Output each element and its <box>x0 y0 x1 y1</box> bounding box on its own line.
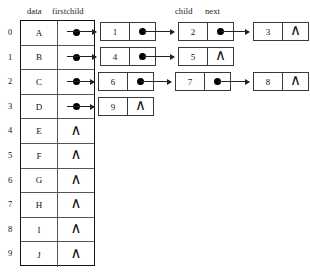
vertex-row: D <box>21 95 94 120</box>
firstchild-arrow <box>67 81 94 82</box>
null-pointer-icon: ∧ <box>71 172 82 187</box>
next-arrow <box>143 31 174 32</box>
null-pointer-icon: ∧ <box>71 246 82 261</box>
caption-next: next <box>205 6 220 16</box>
node-child-cell: 2 <box>179 23 208 40</box>
vertex-firstchild-cell: ∧ <box>58 144 94 168</box>
vertex-firstchild-cell: ∧ <box>58 193 94 217</box>
vertex-index-label: 7 <box>4 192 16 217</box>
node-child-cell: 1 <box>101 23 130 40</box>
node-child-cell: 8 <box>254 73 283 90</box>
vertex-row: E∧ <box>21 119 94 144</box>
node-next-cell: ∧ <box>283 73 308 90</box>
vertex-firstchild-cell: ∧ <box>58 169 94 193</box>
vertex-data-cell: I <box>21 218 58 242</box>
vertex-firstchild-cell: ∧ <box>58 218 94 242</box>
vertex-row: I∧ <box>21 218 94 243</box>
next-arrow <box>218 81 249 82</box>
null-pointer-icon: ∧ <box>71 147 82 162</box>
next-arrow <box>143 56 174 57</box>
vertex-index-label: 5 <box>4 143 16 168</box>
vertex-row: G∧ <box>21 169 94 194</box>
node-child-cell: 6 <box>99 73 128 90</box>
vertex-firstchild-cell: ∧ <box>58 119 94 143</box>
vertex-index-label: 4 <box>4 118 16 143</box>
vertex-row: A <box>21 21 94 46</box>
vertex-data-cell: F <box>21 144 58 168</box>
vertex-data-cell: H <box>21 193 58 217</box>
list-node: 9∧ <box>98 97 154 116</box>
vertex-index-label: 6 <box>4 168 16 193</box>
firstchild-arrow <box>67 56 96 57</box>
node-next-cell: ∧ <box>208 48 233 65</box>
node-child-cell: 5 <box>179 48 208 65</box>
node-child-cell: 4 <box>101 48 130 65</box>
node-next-cell: ∧ <box>128 98 153 115</box>
vertex-row: C <box>21 70 94 95</box>
null-pointer-icon: ∧ <box>71 196 82 211</box>
vertex-row: H∧ <box>21 193 94 218</box>
vertex-index-label: 3 <box>4 94 16 119</box>
pointer-dot-icon <box>73 54 80 61</box>
null-pointer-icon: ∧ <box>290 23 301 38</box>
next-arrow <box>141 81 171 82</box>
vertex-row: F∧ <box>21 144 94 169</box>
caption-data: data <box>27 6 42 16</box>
vertex-data-cell: B <box>21 46 58 70</box>
vertex-row: B <box>21 46 94 71</box>
vertex-index-label: 0 <box>4 20 16 45</box>
list-node: 8∧ <box>253 72 309 91</box>
node-child-cell: 3 <box>254 23 283 40</box>
null-pointer-icon: ∧ <box>71 221 82 236</box>
vertex-data-cell: A <box>21 21 58 45</box>
node-child-cell: 9 <box>99 98 128 115</box>
vertex-data-cell: G <box>21 169 58 193</box>
list-node: 3∧ <box>253 22 309 41</box>
null-pointer-icon: ∧ <box>71 123 82 138</box>
firstchild-arrow <box>67 106 94 107</box>
vertex-row: J∧ <box>21 242 94 267</box>
vertex-data-cell: J <box>21 242 58 267</box>
node-next-cell: ∧ <box>283 23 308 40</box>
null-pointer-icon: ∧ <box>215 48 226 63</box>
adjacency-list-diagram: data firstchild child next 0123456789 AB… <box>0 0 310 273</box>
vertex-firstchild-cell: ∧ <box>58 242 94 267</box>
vertex-index-label: 8 <box>4 217 16 242</box>
vertex-index-label: 2 <box>4 69 16 94</box>
null-pointer-icon: ∧ <box>290 73 301 88</box>
node-child-cell: 7 <box>176 73 205 90</box>
caption-firstchild: firstchild <box>52 6 84 16</box>
vertex-firstchild-cell <box>58 21 94 45</box>
vertex-data-cell: E <box>21 119 58 143</box>
vertex-firstchild-cell <box>58 46 94 70</box>
vertex-data-cell: D <box>21 95 58 119</box>
vertex-index-label: 9 <box>4 241 16 266</box>
null-pointer-icon: ∧ <box>135 98 146 113</box>
vertex-index-label: 1 <box>4 45 16 70</box>
caption-child: child <box>175 6 193 16</box>
vertex-data-cell: C <box>21 70 58 94</box>
firstchild-arrow <box>67 31 96 32</box>
list-node: 5∧ <box>178 47 234 66</box>
next-arrow <box>221 31 249 32</box>
